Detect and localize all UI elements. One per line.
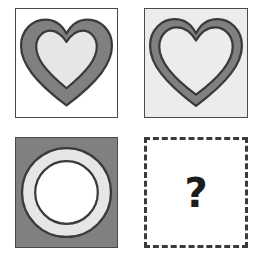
heart-thick-ring-shape (16, 9, 117, 117)
question-mark-label: ? (184, 173, 207, 213)
heart-thin-ring-shape (145, 9, 247, 117)
puzzle-cell-top-left[interactable] (15, 8, 118, 118)
puzzle-cell-bottom-left[interactable] (15, 137, 118, 248)
circle-thick-ring-shape (16, 138, 117, 247)
puzzle-cell-top-right[interactable] (144, 8, 248, 118)
puzzle-grid: ? (0, 0, 262, 260)
puzzle-cell-answer-missing[interactable]: ? (144, 137, 248, 248)
